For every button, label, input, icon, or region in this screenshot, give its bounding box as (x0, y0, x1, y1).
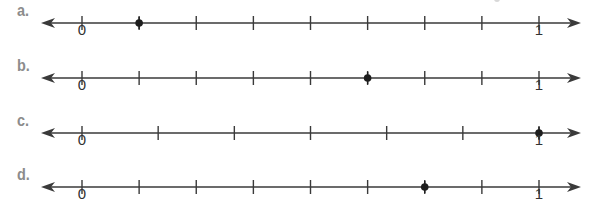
one-label: 1 (529, 76, 549, 93)
zero-label: 0 (72, 76, 92, 93)
number-line-a: a. 0 1 (0, 11, 597, 61)
cropped-glyph-fragment (494, 0, 500, 2)
number-line-d: d. 0 1 (0, 175, 597, 221)
number-line-b: b. 0 1 (0, 66, 597, 116)
zero-label: 0 (72, 131, 92, 148)
one-label: 1 (529, 21, 549, 38)
number-line-c: c. 0 1 (0, 121, 597, 171)
zero-label: 0 (72, 21, 92, 38)
one-label: 1 (529, 185, 549, 202)
one-label: 1 (529, 131, 549, 148)
zero-label: 0 (72, 185, 92, 202)
